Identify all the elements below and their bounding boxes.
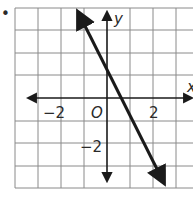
- x-axis-label: x: [186, 78, 193, 96]
- x-tick-label-neg2: −2: [43, 104, 65, 122]
- coordinate-graph: • y x O −2 2 −2: [0, 0, 193, 197]
- y-axis-label: y: [113, 10, 124, 28]
- x-tick-label-2: 2: [149, 104, 159, 122]
- bullet-marker: •: [1, 5, 10, 23]
- y-tick-label-neg2: −2: [80, 138, 102, 156]
- origin-label: O: [91, 104, 103, 122]
